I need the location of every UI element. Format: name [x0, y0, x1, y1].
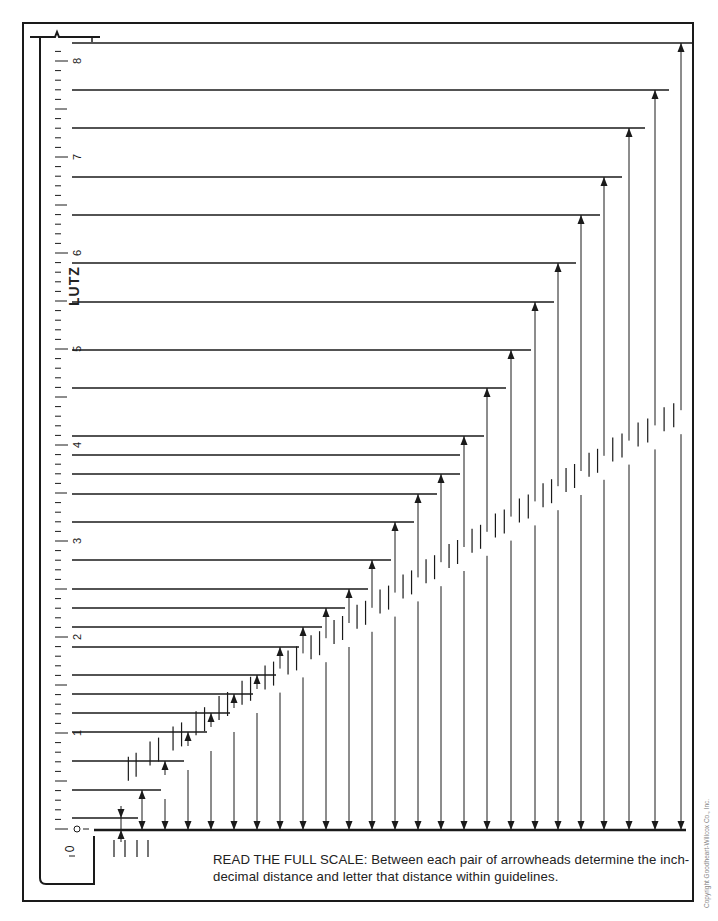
outer-border [23, 23, 693, 901]
guidelines [72, 43, 694, 830]
arrowhead-down [508, 821, 515, 830]
arrowhead-up [162, 761, 169, 770]
arrowhead-up [678, 43, 685, 52]
arrowhead-down [277, 821, 284, 830]
arrowhead-down [300, 821, 307, 830]
arrowhead-up [652, 90, 659, 99]
arrowhead-up [231, 694, 238, 703]
dimension-arrow [601, 177, 608, 830]
arrowhead-up [601, 177, 608, 186]
ruler-number-label: 4 [71, 442, 83, 448]
arrowhead-down [461, 821, 468, 830]
arrowhead-down [626, 821, 633, 830]
page-border [23, 23, 693, 901]
ruler-number-label: 2 [71, 634, 83, 640]
ruler-zero-label: 0 [63, 845, 77, 852]
arrowhead-up [323, 608, 330, 617]
arrowhead-up [254, 675, 261, 684]
arrowhead-down [532, 821, 539, 830]
arrowhead-down [415, 821, 422, 830]
dimension-arrow [508, 350, 515, 830]
arrowhead-down [555, 821, 562, 830]
ruler-exercise-drawing: 123456780 [0, 0, 718, 921]
dimension-arrow [277, 647, 284, 830]
arrowhead-up [484, 388, 491, 397]
dimension-arrow [254, 675, 261, 830]
ruler-zero-mark [74, 826, 80, 832]
arrowhead-down [369, 821, 376, 830]
arrowhead-down [208, 821, 215, 830]
dimension-arrow [678, 43, 685, 830]
dimension-arrow [438, 474, 445, 830]
arrowhead-up [208, 713, 215, 722]
ruler-number-label: 1 [71, 730, 83, 736]
dimension-arrow [118, 806, 125, 842]
arrowhead-up [300, 627, 307, 636]
arrowhead-down [118, 809, 125, 818]
arrowhead-down [438, 821, 445, 830]
ruler-top-edge [30, 32, 100, 37]
arrowhead-up [508, 350, 515, 359]
ruler: 123456780 [30, 32, 100, 884]
arrowhead-down [601, 821, 608, 830]
dimension-arrow [626, 128, 633, 830]
arrowhead-down [652, 821, 659, 830]
dimension-arrow [346, 589, 353, 830]
arrowhead-up [555, 263, 562, 272]
arrowhead-up [438, 474, 445, 483]
arrowhead-down [162, 821, 169, 830]
arrowhead-up [392, 522, 399, 531]
arrowhead-up [578, 215, 585, 224]
arrowhead-up [369, 560, 376, 569]
arrowhead-up [185, 732, 192, 741]
arrowhead-down [231, 821, 238, 830]
arrowhead-up [461, 436, 468, 445]
arrowhead-up [626, 128, 633, 137]
dimension-arrow [532, 302, 539, 830]
dimension-arrow [578, 215, 585, 830]
arrowhead-down [392, 821, 399, 830]
dimension-arrow [652, 90, 659, 830]
dimension-arrow [323, 608, 330, 830]
arrowhead-up [346, 589, 353, 598]
arrowhead-down [323, 821, 330, 830]
dimension-arrow [461, 436, 468, 830]
arrowhead-down [678, 821, 685, 830]
arrowhead-up [532, 302, 539, 311]
ruler-brand-label: LUTZ [66, 266, 82, 306]
ruler-number-label: 3 [71, 538, 83, 544]
arrowhead-up [118, 830, 125, 839]
dimension-arrow [162, 761, 169, 830]
dimension-arrow [139, 790, 146, 830]
measurement-worksheet: 123456780 LUTZ READ THE FULL SCALE: Betw… [0, 0, 718, 921]
dimension-arrow [415, 494, 422, 830]
arrowhead-down [139, 821, 146, 830]
ruler-number-label: 7 [71, 154, 83, 160]
arrowhead-down [254, 821, 261, 830]
dimension-arrow [369, 560, 376, 830]
arrowhead-up [139, 790, 146, 799]
arrowhead-down [578, 821, 585, 830]
dimension-arrow [208, 713, 215, 830]
arrowhead-up [277, 647, 284, 656]
ruler-outline [40, 37, 94, 884]
ruler-number-label: 5 [71, 346, 83, 352]
copyright-notice: Copyright Goodheart-Willcox Co., Inc. [703, 799, 710, 908]
dimension-arrow [392, 522, 399, 830]
dimension-arrow [185, 732, 192, 830]
arrowhead-down [185, 821, 192, 830]
dimension-arrow [300, 627, 307, 830]
answer-guide-marks [114, 403, 674, 857]
ruler-number-label: 6 [71, 250, 83, 256]
arrowhead-down [346, 821, 353, 830]
dimension-arrow [484, 388, 491, 830]
instructions-text: READ THE FULL SCALE: Between each pair o… [213, 851, 693, 885]
arrowhead-up [415, 494, 422, 503]
dimension-arrow [555, 263, 562, 830]
dimension-arrows [118, 43, 685, 842]
arrowhead-down [484, 821, 491, 830]
dimension-arrow [231, 694, 238, 830]
ruler-number-label: 8 [71, 58, 83, 64]
